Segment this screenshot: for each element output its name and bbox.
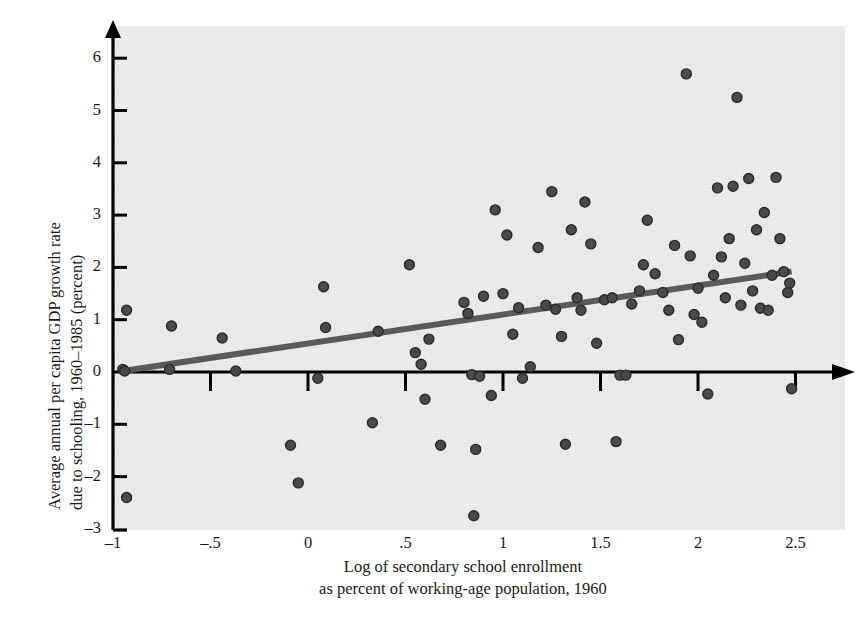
- scatter-point: [541, 300, 551, 310]
- scatter-point: [732, 92, 742, 102]
- y-tick-label: 4: [61, 152, 101, 172]
- scatter-point: [313, 373, 323, 383]
- scatter-point: [586, 239, 596, 249]
- plot-area: [0, 0, 862, 625]
- x-tick-label: –1: [83, 533, 143, 553]
- scatter-point: [410, 348, 420, 358]
- scatter-point: [486, 391, 496, 401]
- scatter-point: [525, 362, 535, 372]
- scatter-point: [459, 297, 469, 307]
- scatter-point: [689, 310, 699, 320]
- scatter-point: [416, 359, 426, 369]
- scatter-point: [681, 69, 691, 79]
- scatter-point: [498, 289, 508, 299]
- scatter-point: [607, 293, 617, 303]
- scatter-point: [551, 304, 561, 314]
- scatter-point: [502, 230, 512, 240]
- scatter-point: [424, 334, 434, 344]
- x-tick-label: 2.5: [766, 533, 826, 553]
- scatter-point: [775, 234, 785, 244]
- scatter-point: [518, 373, 528, 383]
- x-tick-label: 2: [668, 533, 728, 553]
- scatter-point: [771, 172, 781, 182]
- scatter-point: [611, 437, 621, 447]
- scatter-point: [779, 267, 789, 277]
- scatter-point: [463, 308, 473, 318]
- scatter-point: [533, 243, 543, 253]
- y-tick-label: –2: [61, 466, 101, 486]
- scatter-point: [658, 288, 668, 298]
- scatter-point: [560, 439, 570, 449]
- x-tick-label: .5: [376, 533, 436, 553]
- scatter-point: [420, 394, 430, 404]
- scatter-point: [720, 293, 730, 303]
- scatter-point: [685, 251, 695, 261]
- scatter-point: [122, 305, 132, 315]
- scatter-point: [650, 269, 660, 279]
- scatter-point: [744, 174, 754, 184]
- scatter-point: [471, 444, 481, 454]
- scatter-point: [508, 329, 518, 339]
- scatter-point: [436, 440, 446, 450]
- x-tick-label: 1: [473, 533, 533, 553]
- scatter-point: [621, 370, 631, 380]
- y-tick-label: 3: [61, 204, 101, 224]
- y-tick-label: 6: [61, 47, 101, 67]
- scatter-point: [547, 187, 557, 197]
- scatter-point: [697, 317, 707, 327]
- scatter-chart-figure: Average annual per capita GDP growth rat…: [0, 0, 862, 625]
- scatter-point: [740, 258, 750, 268]
- scatter-point: [703, 389, 713, 399]
- scatter-point: [165, 364, 175, 374]
- scatter-point: [557, 331, 567, 341]
- scatter-point: [693, 283, 703, 293]
- scatter-point: [167, 321, 177, 331]
- scatter-point: [670, 240, 680, 250]
- scatter-point: [319, 282, 329, 292]
- scatter-point: [724, 234, 734, 244]
- scatter-point: [748, 286, 758, 296]
- scatter-point: [642, 215, 652, 225]
- y-tick-label: 2: [61, 256, 101, 276]
- scatter-point: [759, 208, 769, 218]
- scatter-point: [709, 270, 719, 280]
- x-tick-label: 0: [278, 533, 338, 553]
- scatter-point: [479, 291, 489, 301]
- scatter-point: [592, 338, 602, 348]
- scatter-point: [373, 326, 383, 336]
- scatter-point: [728, 181, 738, 191]
- x-axis-title: Log of secondary school enrollment as pe…: [113, 556, 813, 600]
- scatter-point: [469, 511, 479, 521]
- scatter-point: [514, 303, 524, 313]
- x-axis-title-line-2: as percent of working-age population, 19…: [113, 578, 813, 600]
- scatter-point: [475, 371, 485, 381]
- scatter-point: [713, 183, 723, 193]
- x-tick-label: 1.5: [571, 533, 631, 553]
- scatter-point: [286, 440, 296, 450]
- scatter-point: [490, 205, 500, 215]
- scatter-point: [217, 333, 227, 343]
- scatter-point: [638, 260, 648, 270]
- scatter-point: [763, 305, 773, 315]
- y-tick-label: 0: [61, 361, 101, 381]
- scatter-point: [785, 278, 795, 288]
- scatter-point: [627, 299, 637, 309]
- x-tick-label: –.5: [181, 533, 241, 553]
- scatter-point: [736, 300, 746, 310]
- scatter-point: [122, 493, 132, 503]
- scatter-point: [580, 197, 590, 207]
- y-tick-label: –1: [61, 413, 101, 433]
- scatter-point: [572, 293, 582, 303]
- scatter-point: [367, 418, 377, 428]
- scatter-point: [783, 288, 793, 298]
- y-tick-label: 5: [61, 100, 101, 120]
- scatter-point: [566, 225, 576, 235]
- scatter-point: [293, 478, 303, 488]
- scatter-point: [787, 384, 797, 394]
- scatter-point: [752, 225, 762, 235]
- scatter-point: [767, 270, 777, 280]
- x-axis-title-line-1: Log of secondary school enrollment: [113, 556, 813, 578]
- scatter-point: [635, 286, 645, 296]
- scatter-point: [716, 252, 726, 262]
- scatter-point: [664, 305, 674, 315]
